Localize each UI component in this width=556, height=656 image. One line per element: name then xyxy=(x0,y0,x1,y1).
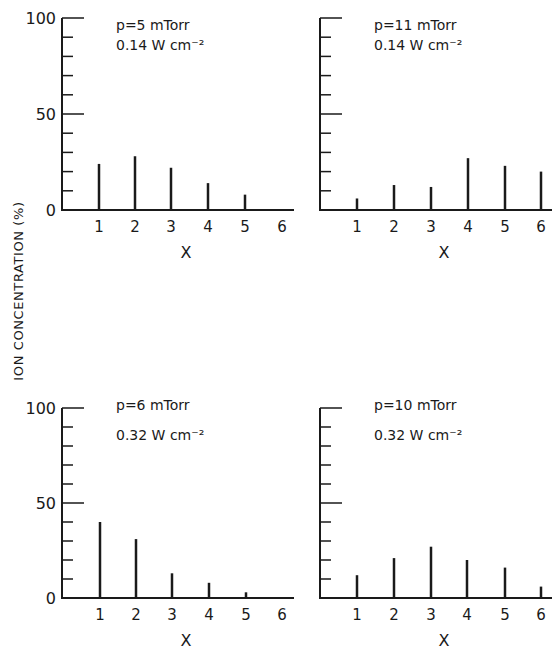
x-tick-label: 5 xyxy=(500,606,510,624)
y-tick-label: 50 xyxy=(36,105,56,124)
panel-bottom-right: 123456Xp=10 mTorr0.32 W cm⁻² xyxy=(319,397,552,650)
x-tick-label: 4 xyxy=(463,218,473,236)
y-tick-label: 100 xyxy=(25,9,56,28)
x-tick-label: 2 xyxy=(389,218,399,236)
x-axis-label: X xyxy=(439,243,450,262)
x-tick-label: 1 xyxy=(94,218,104,236)
chart-canvas: 050100123456Xp=5 mTorr0.14 W cm⁻²123456X… xyxy=(0,0,556,656)
x-tick-label: 1 xyxy=(95,606,105,624)
y-axis-label-text: ION CONCENTRATION (%) xyxy=(11,201,26,380)
x-tick-label: 4 xyxy=(462,606,472,624)
x-tick-label: 2 xyxy=(389,606,399,624)
x-tick-label: 3 xyxy=(167,606,177,624)
x-axis-label: X xyxy=(439,631,450,650)
x-tick-label: 6 xyxy=(536,218,546,236)
power-annotation: 0.14 W cm⁻² xyxy=(116,37,204,53)
x-tick-label: 5 xyxy=(240,218,250,236)
x-tick-label: 4 xyxy=(203,218,213,236)
x-tick-label: 4 xyxy=(204,606,214,624)
x-tick-label: 2 xyxy=(130,218,140,236)
x-tick-label: 2 xyxy=(131,606,141,624)
x-tick-label: 5 xyxy=(241,606,251,624)
y-tick-label: 0 xyxy=(46,589,56,608)
y-tick-label: 0 xyxy=(46,201,56,220)
x-tick-label: 1 xyxy=(352,606,362,624)
x-tick-label: 1 xyxy=(352,218,362,236)
x-tick-label: 6 xyxy=(277,606,287,624)
x-tick-label: 3 xyxy=(166,218,176,236)
panel-top-right: 123456Xp=11 mTorr0.14 W cm⁻² xyxy=(319,17,552,262)
x-tick-label: 3 xyxy=(426,218,436,236)
x-tick-label: 3 xyxy=(426,606,436,624)
x-tick-label: 6 xyxy=(536,606,546,624)
y-tick-label: 50 xyxy=(36,494,56,513)
x-axis-label: X xyxy=(181,631,192,650)
pressure-annotation: p=11 mTorr xyxy=(374,17,457,33)
x-tick-label: 6 xyxy=(277,218,287,236)
y-tick-label: 100 xyxy=(25,399,56,418)
power-annotation: 0.32 W cm⁻² xyxy=(116,427,204,443)
x-axis-label: X xyxy=(181,243,192,262)
pressure-annotation: p=10 mTorr xyxy=(374,397,457,413)
x-tick-label: 5 xyxy=(500,218,510,236)
panel-top-left: 050100123456Xp=5 mTorr0.14 W cm⁻² xyxy=(25,9,294,262)
pressure-annotation: p=5 mTorr xyxy=(116,17,190,33)
panel-bottom-left: 050100123456Xp=6 mTorr0.32 W cm⁻² xyxy=(25,397,294,650)
power-annotation: 0.14 W cm⁻² xyxy=(374,37,462,53)
pressure-annotation: p=6 mTorr xyxy=(116,397,190,413)
power-annotation: 0.32 W cm⁻² xyxy=(374,427,462,443)
figure: 050100123456Xp=5 mTorr0.14 W cm⁻²123456X… xyxy=(0,0,556,656)
